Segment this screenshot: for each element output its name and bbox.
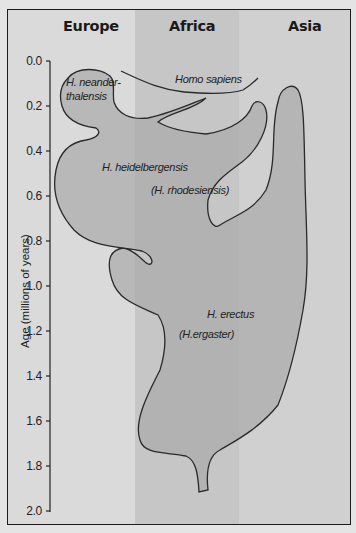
y-tick-0-0: 0.0 [12,54,42,68]
y-tick-0-8: 0.8 [12,234,42,248]
figure-frame: Europe Africa Asia Age (millions of year… [7,9,351,525]
label-heidelbergensis: H. heidelbergensis [102,161,188,173]
species-range-plot [8,10,350,524]
label-erectus: H. erectus [207,308,254,320]
species-region-main [55,70,307,493]
label-homo-sapiens: Homo sapiens [175,73,242,85]
y-tick-1-4: 1.4 [12,369,42,383]
y-tick-0-6: 0.6 [12,189,42,203]
y-tick-0-2: 0.2 [12,99,42,113]
label-neanderthalensis-1: H. neander- [66,76,121,88]
y-tick-1-2: 1.2 [12,324,42,338]
y-tick-0-4: 0.4 [12,144,42,158]
y-tick-1-0: 1.0 [12,279,42,293]
y-tick-2-0: 2.0 [12,504,42,518]
y-tick-1-8: 1.8 [12,459,42,473]
label-neanderthalensis-2: thalensis [66,90,107,102]
label-ergaster: (H.ergaster) [179,328,234,340]
label-rhodesiensis: (H. rhodesiensis) [151,184,229,196]
y-tick-1-6: 1.6 [12,414,42,428]
